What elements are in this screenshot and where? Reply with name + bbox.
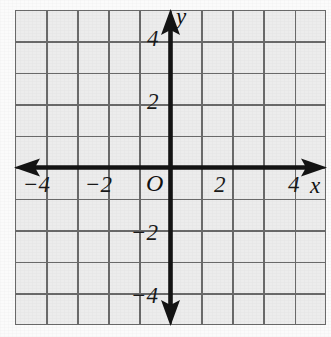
y-tick-label-neg-4: −4 (131, 284, 158, 307)
y-tick-label-neg-2: −2 (131, 221, 158, 244)
x-tick-label-4: 4 (288, 173, 300, 196)
x-tick-label-2: 2 (214, 173, 226, 196)
y-axis-name-label: y (176, 5, 186, 28)
x-tick-label-neg-4: −4 (23, 173, 50, 196)
x-axis-name-label: x (310, 174, 320, 197)
y-tick-label-4: 4 (147, 27, 159, 50)
x-tick-label-neg-2: −2 (85, 173, 112, 196)
axes (0, 0, 331, 337)
coordinate-plane-figure: 4 2 −2 −4 −4 −2 2 4 O x y (0, 0, 331, 337)
y-tick-label-2: 2 (147, 90, 159, 113)
origin-label: O (146, 171, 163, 195)
